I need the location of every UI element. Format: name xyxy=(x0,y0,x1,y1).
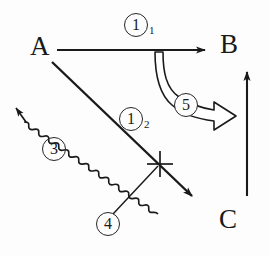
edge-5-hollow-curved-arrow xyxy=(155,52,236,130)
diagram-canvas: A B C 11 12 3 4 5 xyxy=(0,0,269,256)
node-label-a: A xyxy=(30,33,50,60)
edge-label-1-1-subscript: 1 xyxy=(149,24,155,36)
edge-label-3: 3 xyxy=(42,137,66,161)
edge-label-1-2-subscript: 2 xyxy=(144,118,150,130)
circled-number-3: 3 xyxy=(42,137,66,161)
edge-4-leader-line xyxy=(113,166,158,214)
node-label-b: B xyxy=(220,31,238,58)
edge-label-4: 4 xyxy=(96,212,120,236)
node-label-c: C xyxy=(219,206,237,233)
circled-number-4: 4 xyxy=(96,212,120,236)
edge-label-1-2: 12 xyxy=(119,107,150,131)
edge-label-5: 5 xyxy=(174,93,198,117)
circled-number-1-first: 1 xyxy=(124,13,148,37)
circled-number-5: 5 xyxy=(174,93,198,117)
circled-number-1-second: 1 xyxy=(119,107,143,131)
edge-label-1-1: 11 xyxy=(124,13,155,37)
